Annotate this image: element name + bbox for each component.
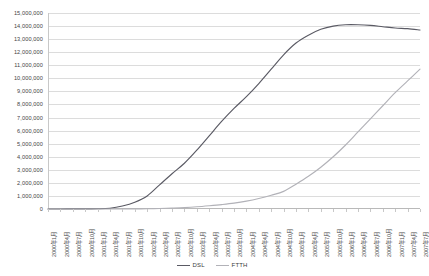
x-axis-tick-label: 2004年4月	[262, 213, 268, 257]
series-line-dsl	[48, 25, 420, 209]
x-axis-tick-label: 2005年1月	[299, 213, 305, 257]
x-axis-tick	[222, 209, 223, 212]
legend-label: DSL	[193, 262, 205, 269]
y-axis-tick-label: 14,000,000	[14, 23, 43, 29]
x-axis-tick-label: 2007年7月	[423, 213, 429, 257]
x-axis-tick-label: 2006年1月	[349, 213, 355, 257]
x-axis-tick	[197, 209, 198, 212]
series-line-ftth	[48, 69, 420, 209]
y-axis-tick-label: 0	[40, 206, 43, 212]
x-axis-tick-label: 2003年4月	[213, 213, 219, 257]
x-axis-tick-label: 2004年7月	[275, 213, 281, 257]
legend-item-ftth[interactable]: FTTH	[216, 262, 248, 269]
x-axis-tick-label: 2005年10月	[337, 213, 343, 257]
x-axis-tick-label: 2002年4月	[163, 213, 169, 257]
x-axis-tick	[234, 209, 235, 212]
chart-legend: DSLFTTH	[0, 259, 424, 271]
x-axis-tick	[383, 209, 384, 212]
x-axis-tick-label: 2001年4月	[113, 213, 119, 257]
x-axis-tick-label: 2004年10月	[287, 213, 293, 257]
x-axis-tick-label: 2003年7月	[225, 213, 231, 257]
x-axis-tick-label: 2001年10月	[138, 213, 144, 257]
x-axis-tick	[308, 209, 309, 212]
y-axis-tick-label: 15,000,000	[14, 10, 43, 16]
y-axis-tick-label: 6,000,000	[17, 128, 43, 134]
x-axis-tick-label: 2002年10月	[188, 213, 194, 257]
x-axis-tick	[122, 209, 123, 212]
x-axis-tick	[209, 209, 210, 212]
y-axis-tick-label: 4,000,000	[17, 154, 43, 160]
x-axis-tick	[246, 209, 247, 212]
x-axis-tick	[172, 209, 173, 212]
x-axis-tick	[85, 209, 86, 212]
y-axis-tick-label: 12,000,000	[14, 49, 43, 55]
x-axis-tick-label: 2000年4月	[64, 213, 70, 257]
x-axis-tick-label: 2000年1月	[51, 213, 57, 257]
legend-item-dsl[interactable]: DSL	[177, 262, 205, 269]
x-axis-tick	[110, 209, 111, 212]
x-axis-tick	[296, 209, 297, 212]
x-axis-tick	[135, 209, 136, 212]
x-axis-tick	[370, 209, 371, 212]
y-axis-tick-label: 5,000,000	[17, 141, 43, 147]
x-axis-tick	[395, 209, 396, 212]
series-paths	[48, 25, 420, 209]
legend-swatch-icon	[177, 265, 190, 266]
x-axis-tick-label: 2007年4月	[411, 213, 417, 257]
x-axis-tick-label: 2001年7月	[126, 213, 132, 257]
x-axis-tick	[321, 209, 322, 212]
x-axis-tick-label: 2006年4月	[361, 213, 367, 257]
x-axis-tick	[98, 209, 99, 212]
x-axis-tick	[184, 209, 185, 212]
x-axis-tick-label: 2002年7月	[175, 213, 181, 257]
y-axis-tick-label: 7,000,000	[17, 115, 43, 121]
x-axis-tick	[420, 209, 421, 212]
y-axis-tick-label: 13,000,000	[14, 36, 43, 42]
x-axis-tick-label: 2003年1月	[200, 213, 206, 257]
y-axis-tick-label: 3,000,000	[17, 167, 43, 173]
x-axis-tick-label: 2005年7月	[324, 213, 330, 257]
x-axis-tick-label: 2006年10月	[386, 213, 392, 257]
y-axis-tick-label: 1,000,000	[17, 193, 43, 199]
x-axis-tick	[48, 209, 49, 212]
x-axis-tick	[147, 209, 148, 212]
y-axis-tick-label: 8,000,000	[17, 101, 43, 107]
y-axis-tick-label: 10,000,000	[14, 75, 43, 81]
y-axis-tick-label: 11,000,000	[14, 62, 43, 68]
x-axis-tick-label: 2000年7月	[76, 213, 82, 257]
x-axis-tick-label: 2004年1月	[250, 213, 256, 257]
y-axis-tick-label: 9,000,000	[17, 88, 43, 94]
y-axis-tick-label: 2,000,000	[17, 180, 43, 186]
x-axis-tick-label: 2002年1月	[151, 213, 157, 257]
series-layer	[48, 13, 420, 209]
x-axis-tick	[160, 209, 161, 212]
x-axis-tick-label: 2000年10月	[89, 213, 95, 257]
x-axis-tick	[358, 209, 359, 212]
legend-swatch-icon	[216, 265, 229, 266]
x-axis-tick	[346, 209, 347, 212]
x-axis-tick	[271, 209, 272, 212]
x-axis-tick	[73, 209, 74, 212]
x-axis-tick	[60, 209, 61, 212]
x-axis-tick	[333, 209, 334, 212]
x-axis-tick	[284, 209, 285, 212]
legend-label: FTTH	[232, 262, 248, 269]
x-axis-labels: 2000年1月2000年4月2000年7月2000年10月2001年1月2001…	[48, 213, 420, 259]
x-axis-tick-label: 2007年1月	[399, 213, 405, 257]
x-axis-tick-label: 2006年7月	[374, 213, 380, 257]
y-axis-labels: 15,000,00014,000,00013,000,00012,000,000…	[0, 0, 46, 222]
x-axis-tick-label: 2005年4月	[312, 213, 318, 257]
x-axis-tick	[259, 209, 260, 212]
x-axis-tick-label: 2003年10月	[237, 213, 243, 257]
x-axis-tick-label: 2001年1月	[101, 213, 107, 257]
x-axis-tick	[408, 209, 409, 212]
